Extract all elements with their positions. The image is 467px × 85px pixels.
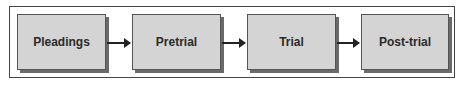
- stage-label: Post-trial: [379, 35, 431, 49]
- stage-post-trial: Post-trial: [361, 14, 449, 70]
- arrow-icon: [107, 42, 130, 44]
- stage-label: Pleadings: [33, 35, 90, 49]
- stage-trial: Trial: [247, 14, 336, 70]
- stage-pretrial: Pretrial: [132, 14, 221, 70]
- stage-label: Trial: [279, 35, 304, 49]
- arrow-icon: [222, 42, 245, 44]
- stage-label: Pretrial: [156, 35, 197, 49]
- stage-pleadings: Pleadings: [17, 14, 106, 70]
- arrow-icon: [337, 42, 359, 44]
